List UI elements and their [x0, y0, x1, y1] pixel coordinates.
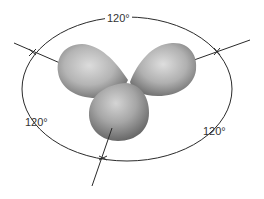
angle-label-right: 120°: [203, 126, 226, 137]
left-axis: [14, 43, 60, 63]
sp2-orbital-diagram: [0, 0, 264, 199]
angle-label-top: 120°: [105, 13, 132, 24]
right-lobe: [130, 43, 196, 96]
angle-label-left: 120°: [25, 117, 48, 128]
right-axis: [194, 40, 250, 60]
